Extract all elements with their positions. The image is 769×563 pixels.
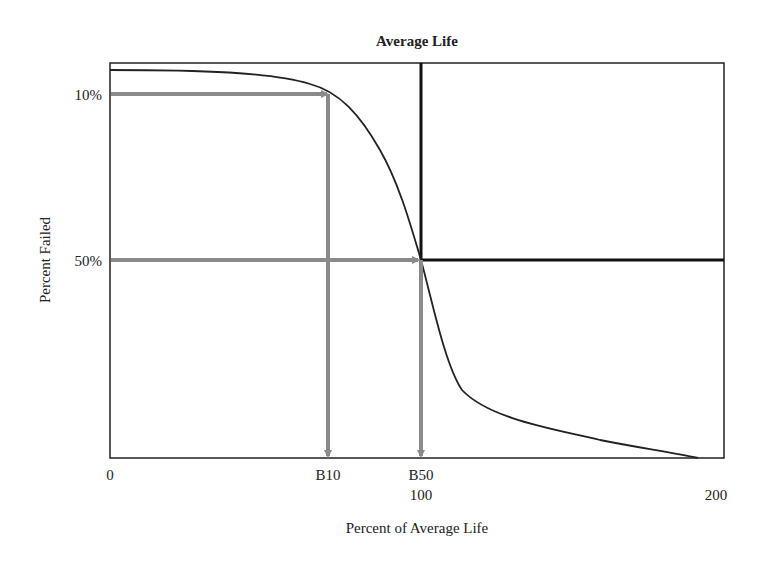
chart-title: Average Life	[376, 33, 458, 49]
y-tick-50: 50%	[75, 253, 103, 269]
survival-curve	[110, 70, 698, 458]
x-axis-label: Percent of Average Life	[346, 520, 489, 536]
x-tick-0: 0	[106, 467, 114, 483]
chart: Average Life 10% 50% Percent Failed 0 B1…	[0, 0, 769, 563]
x-tick-200: 200	[705, 487, 728, 503]
x-tick-100: 100	[410, 487, 433, 503]
x-tick-b50: B50	[408, 467, 433, 483]
x-tick-b10: B10	[315, 467, 340, 483]
y-axis-label: Percent Failed	[37, 216, 53, 303]
y-tick-10: 10%	[75, 87, 103, 103]
